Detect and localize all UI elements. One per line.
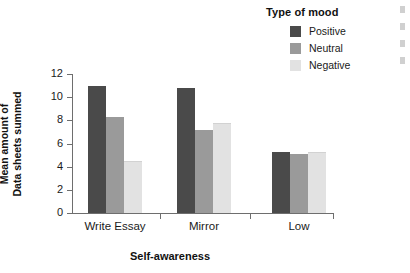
- y-tick-label: 12: [51, 67, 63, 80]
- x-category-label-write-essay: Write Essay: [84, 220, 145, 232]
- edge-mark: [400, 23, 405, 30]
- page-edge-artifact: [400, 6, 410, 64]
- legend-swatch-positive: [290, 26, 301, 37]
- y-tick: 8: [67, 120, 72, 121]
- bar-positive-write-essay: [88, 86, 106, 213]
- y-tick: 0: [67, 213, 72, 214]
- y-tick-label: 0: [57, 206, 63, 219]
- y-tick: 12: [67, 74, 72, 75]
- x-axis-title: Self-awareness: [0, 250, 410, 262]
- chart-legend: Type of mood Positive Neutral Negative: [246, 6, 396, 76]
- legend-item-negative: Negative: [290, 59, 396, 71]
- legend-swatch-neutral: [290, 43, 301, 54]
- legend-swatch-negative: [290, 60, 301, 71]
- bar-positive-mirror: [177, 88, 195, 213]
- y-tick-label: 10: [51, 90, 63, 103]
- edge-mark: [400, 57, 405, 64]
- legend-label-positive: Positive: [309, 25, 346, 37]
- y-tick: 2: [67, 190, 72, 191]
- bar-neutral-write-essay: [106, 117, 124, 213]
- legend-title: Type of mood: [266, 6, 396, 18]
- plot-area: 024681012 Write EssayMirrorLow: [72, 74, 334, 213]
- figure-bar-chart: Type of mood Positive Neutral Negative 0…: [0, 0, 410, 273]
- legend-label-neutral: Neutral: [309, 42, 343, 54]
- bar-negative-write-essay: [124, 161, 142, 213]
- legend-item-positive: Positive: [290, 25, 396, 37]
- y-tick-label: 6: [57, 137, 63, 150]
- bar-negative-low: [308, 152, 326, 213]
- x-tick: [160, 214, 161, 219]
- y-tick-label: 2: [57, 183, 63, 196]
- y-axis-line: [72, 74, 73, 213]
- y-tick: 4: [67, 167, 72, 168]
- bar-positive-low: [272, 152, 290, 213]
- bar-neutral-low: [290, 154, 308, 213]
- bar-negative-mirror: [213, 123, 231, 213]
- x-category-label-mirror: Mirror: [189, 220, 219, 232]
- legend-label-negative: Negative: [309, 59, 350, 71]
- y-tick-label: 8: [57, 113, 63, 126]
- x-axis-line: [72, 213, 334, 214]
- x-category-label-low: Low: [288, 220, 309, 232]
- y-tick: 6: [67, 144, 72, 145]
- bar-neutral-mirror: [195, 130, 213, 213]
- y-axis-title: Mean amount of Data sheets summed: [0, 78, 24, 210]
- edge-mark: [400, 6, 405, 13]
- y-tick-label: 4: [57, 160, 63, 173]
- y-tick: 10: [67, 97, 72, 98]
- edge-mark: [400, 40, 405, 47]
- x-tick: [333, 214, 334, 219]
- legend-item-neutral: Neutral: [290, 42, 396, 54]
- x-tick: [250, 214, 251, 219]
